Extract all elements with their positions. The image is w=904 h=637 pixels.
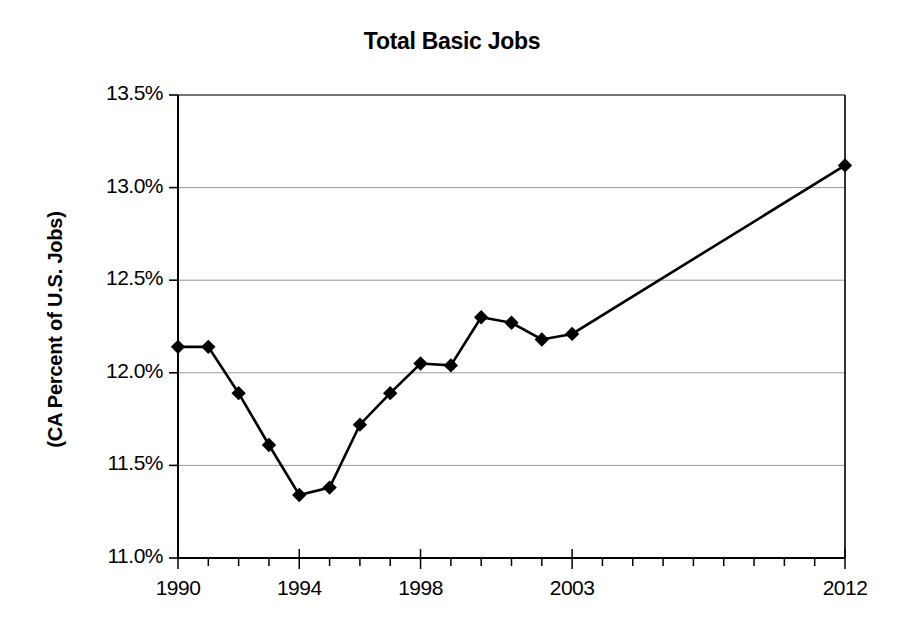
data-line	[178, 165, 845, 495]
x-tick-label: 1990	[118, 576, 238, 600]
y-tick-label: 12.0%	[73, 359, 163, 383]
x-tick-label: 2012	[785, 576, 904, 600]
y-tick-label: 13.0%	[73, 174, 163, 198]
x-tick-label: 2003	[512, 576, 632, 600]
y-tick-label: 13.5%	[73, 81, 163, 105]
y-tick-label: 11.0%	[73, 544, 163, 568]
chart-container: Total Basic Jobs (CA Percent of U.S. Job…	[0, 0, 904, 637]
x-tick-label: 1998	[361, 576, 481, 600]
y-tick-label: 11.5%	[73, 451, 163, 475]
y-tick-label: 12.5%	[73, 266, 163, 290]
x-tick-label: 1994	[239, 576, 359, 600]
y-axis-ticks	[169, 95, 178, 558]
